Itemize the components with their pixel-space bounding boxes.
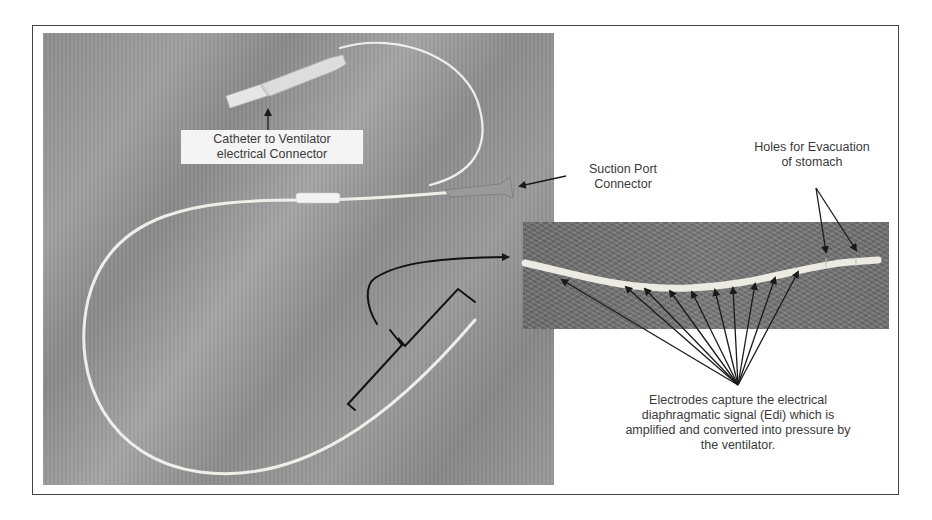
suction-port [445, 177, 513, 198]
electrical-connector [226, 55, 346, 108]
holes-label: Holes for Evacuation of stomach [738, 140, 886, 170]
electrodes-label: Electrodes capture the electrical diaphr… [588, 393, 888, 453]
inset-catheter [525, 257, 878, 288]
suction-port-label-line1: Suction Port [575, 162, 671, 177]
suction-port-label-line2: Connector [575, 177, 671, 192]
holes-label-line2: of stomach [738, 155, 886, 170]
electrode-bracket [348, 257, 508, 410]
connector-label-line2: electrical Connector [187, 147, 357, 162]
suction-port-label: Suction Port Connector [575, 162, 671, 192]
connector-label: Catheter to Ventilator electrical Connec… [181, 130, 363, 164]
electrodes-label-line3: amplified and converted into pressure by [588, 423, 888, 438]
electrodes-label-line4: the ventilator. [588, 438, 888, 453]
electrodes-label-line2: diaphragmatic signal (Edi) which is [588, 408, 888, 423]
holes-label-line1: Holes for Evacuation [738, 140, 886, 155]
electrodes-label-line1: Electrodes capture the electrical [588, 393, 888, 408]
catheter-tag [296, 193, 340, 203]
connector-label-line1: Catheter to Ventilator [187, 132, 357, 147]
catheter-tube [84, 43, 505, 474]
